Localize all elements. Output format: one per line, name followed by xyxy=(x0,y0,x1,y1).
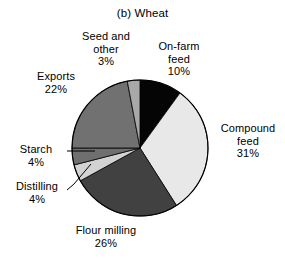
pie-label-distilling: Distilling 4% xyxy=(6,180,68,205)
pie-label-exports-value: 22% xyxy=(25,83,87,96)
pie-label-flour-milling-line1: Flour milling xyxy=(57,224,155,237)
chart-page: (b) Wheat Seed and other 3% On-farm feed… xyxy=(0,0,285,261)
pie-label-compound-feed-value: 31% xyxy=(214,147,282,160)
pie-label-distilling-line1: Distilling xyxy=(6,180,68,193)
pie-label-seed-and-other: Seed and other 3% xyxy=(74,30,138,68)
pie-label-compound-feed-line1: Compound xyxy=(214,122,282,135)
pie-label-on-farm-feed-line2: feed xyxy=(148,53,210,66)
pie-label-compound-feed-line2: feed xyxy=(214,135,282,148)
pie-label-starch-line1: Starch xyxy=(6,143,66,156)
pie-label-on-farm-feed-value: 10% xyxy=(148,65,210,78)
pie-label-starch-value: 4% xyxy=(6,156,66,169)
pie-label-distilling-value: 4% xyxy=(6,193,68,206)
pie-label-seed-and-other-value: 3% xyxy=(74,55,138,68)
pie-label-seed-and-other-line1: Seed and xyxy=(74,30,138,43)
pie-label-exports-line1: Exports xyxy=(25,70,87,83)
pie-label-seed-and-other-line2: other xyxy=(74,43,138,56)
pie-label-on-farm-feed: On-farm feed 10% xyxy=(148,40,210,78)
pie-label-flour-milling: Flour milling 26% xyxy=(57,224,155,249)
pie-label-flour-milling-value: 26% xyxy=(57,237,155,250)
pie-label-exports: Exports 22% xyxy=(25,70,87,95)
pie-label-starch: Starch 4% xyxy=(6,143,66,168)
pie-label-on-farm-feed-line1: On-farm xyxy=(148,40,210,53)
pie-label-compound-feed: Compound feed 31% xyxy=(214,122,282,160)
